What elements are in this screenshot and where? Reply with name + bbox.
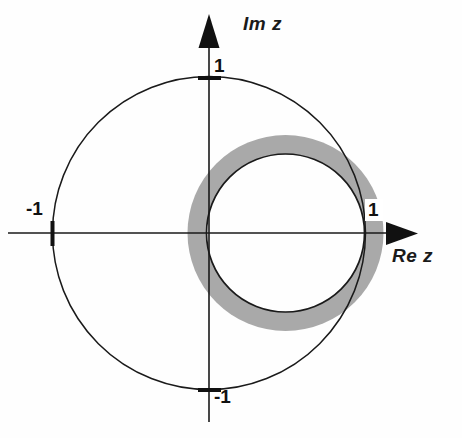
tick-label-imaginary-negative-one: -1 [214, 386, 231, 408]
tick-label-real-positive-one: 1 [365, 199, 383, 221]
shaded-annulus-region [0, 0, 462, 438]
complex-plane-figure: Im z Re z 1 -1 -1 1 [0, 0, 462, 438]
tick-label-real-negative-one: -1 [26, 198, 43, 220]
plot-canvas [0, 0, 462, 438]
real-axis-label: Re z [392, 245, 433, 267]
imaginary-axis-label: Im z [243, 13, 282, 35]
tick-label-imaginary-positive-one: 1 [214, 55, 225, 77]
